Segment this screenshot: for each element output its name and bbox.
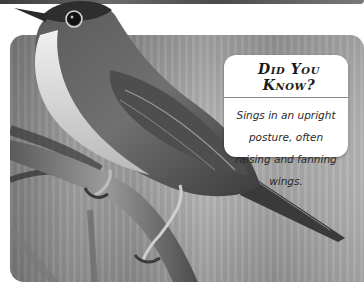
callout-body: Sings in an upright posture, often raisi… bbox=[230, 104, 342, 192]
callout-title: Did You Know? bbox=[224, 61, 348, 98]
page: Did You Know? Sings in an upright postur… bbox=[0, 0, 364, 287]
did-you-know-callout: Did You Know? Sings in an upright postur… bbox=[224, 55, 348, 157]
